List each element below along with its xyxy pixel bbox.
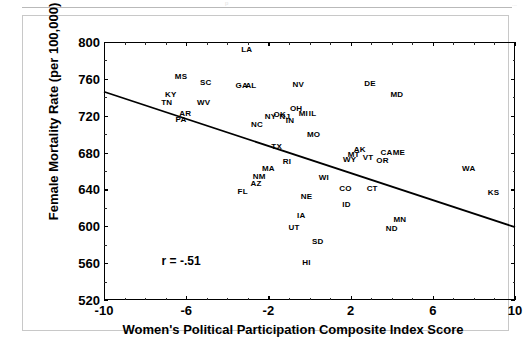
x-tick-label: 10 — [508, 304, 522, 317]
tick-mark — [145, 42, 146, 45]
data-point-label: ME — [393, 149, 405, 157]
x-tick-label: 2 — [347, 304, 354, 317]
tick-mark — [104, 42, 105, 46]
tick-mark — [104, 97, 107, 98]
data-point-label: NV — [292, 81, 304, 89]
tick-mark — [511, 153, 515, 154]
tick-mark — [104, 263, 108, 264]
data-point-label: WA — [462, 165, 475, 173]
tick-mark — [227, 42, 228, 45]
tick-mark — [453, 298, 454, 301]
x-tick-label: -10 — [95, 304, 114, 317]
x-tick-label: 6 — [429, 304, 436, 317]
tick-mark — [104, 60, 107, 61]
data-point-label: SD — [312, 238, 324, 246]
tick-mark — [166, 42, 167, 45]
tick-mark — [248, 42, 249, 45]
data-point-label: PA — [176, 116, 187, 124]
page-header-ghost-text-left: p — [225, 0, 229, 6]
data-point-label: KS — [488, 189, 500, 197]
tick-mark — [289, 42, 290, 45]
tick-mark — [515, 42, 516, 46]
data-point-label: RI — [283, 158, 291, 166]
tick-mark — [513, 134, 516, 135]
tick-mark — [330, 42, 331, 45]
y-tick-label: 680 — [78, 146, 100, 159]
tick-mark — [125, 298, 126, 301]
data-point-label: ID — [342, 201, 350, 209]
tick-mark — [310, 298, 311, 301]
tick-mark — [511, 263, 515, 264]
tick-mark — [412, 42, 413, 45]
data-point-label: VT — [363, 154, 374, 162]
data-point-label: IN — [286, 117, 294, 125]
data-point-label: NE — [301, 193, 313, 201]
data-point-label: WI — [319, 174, 329, 182]
tick-mark — [145, 298, 146, 301]
tick-mark — [104, 226, 108, 227]
tick-mark — [515, 296, 516, 300]
tick-mark — [511, 79, 515, 80]
tick-mark — [513, 60, 516, 61]
x-tick-label: -2 — [263, 304, 275, 317]
y-tick-label: 600 — [78, 220, 100, 233]
data-point-label: MO — [307, 131, 320, 139]
tick-mark — [494, 298, 495, 301]
y-tick-label: 640 — [78, 183, 100, 196]
tick-mark — [186, 42, 187, 46]
tick-mark — [474, 298, 475, 301]
data-point-label: DE — [364, 80, 376, 88]
tick-mark — [310, 42, 311, 45]
data-point-label: WY — [343, 156, 356, 164]
tick-mark — [371, 298, 372, 301]
tick-mark — [511, 189, 515, 190]
data-point-label: AZ — [251, 180, 262, 188]
tick-mark — [511, 116, 515, 117]
x-axis-title: Women's Political Participation Composit… — [63, 322, 523, 337]
tick-mark — [104, 134, 107, 135]
data-point-label: CO — [339, 185, 351, 193]
y-tick-label: 720 — [78, 109, 100, 122]
data-point-label: MS — [175, 73, 187, 81]
x-tick-label: -6 — [180, 304, 192, 317]
data-point-label: IA — [297, 212, 305, 220]
data-point-label: MD — [390, 91, 403, 99]
tick-mark — [207, 42, 208, 45]
y-tick-label: 760 — [78, 72, 100, 85]
correlation-annotation: r = -.51 — [162, 254, 201, 268]
tick-mark — [104, 79, 108, 80]
tick-mark — [513, 97, 516, 98]
data-point-label: HI — [302, 259, 310, 267]
data-point-label: IL — [309, 110, 317, 118]
tick-mark — [433, 42, 434, 46]
tick-mark — [268, 296, 269, 300]
tick-mark — [227, 298, 228, 301]
tick-mark — [104, 296, 105, 300]
tick-mark — [511, 300, 515, 301]
tick-mark — [412, 298, 413, 301]
data-point-label: UT — [289, 224, 300, 232]
tick-mark — [104, 245, 107, 246]
tick-mark — [494, 42, 495, 45]
data-point-label: FL — [238, 188, 248, 196]
page-header-rule — [22, 7, 512, 8]
tick-mark — [104, 171, 107, 172]
y-tick-label: 560 — [78, 257, 100, 270]
tick-mark — [351, 42, 352, 46]
tick-mark — [104, 208, 107, 209]
tick-mark — [351, 296, 352, 300]
tick-mark — [125, 42, 126, 45]
figure-container: Female Mortality Rate (per 100,000) Wome… — [22, 15, 509, 331]
data-point-label: MI — [299, 110, 308, 118]
tick-mark — [207, 298, 208, 301]
x-axis-tick-labels: -10-6-22610 — [104, 304, 515, 322]
tick-mark — [104, 189, 108, 190]
data-point-label: TX — [271, 143, 282, 151]
data-point-label: MN — [393, 216, 406, 224]
tick-mark — [104, 116, 108, 117]
data-point-label: WV — [197, 99, 210, 107]
tick-mark — [330, 298, 331, 301]
data-point-label: SC — [200, 79, 212, 87]
tick-mark — [104, 300, 108, 301]
tick-mark — [474, 42, 475, 45]
